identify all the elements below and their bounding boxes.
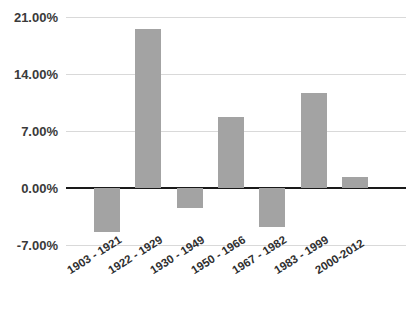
bar	[301, 93, 327, 188]
bar	[259, 188, 285, 227]
gridline	[66, 17, 406, 18]
x-axis-labels: 1903 - 19211922 - 19291930 - 19491950 - …	[66, 258, 410, 324]
plot-area	[66, 0, 406, 258]
bar	[135, 29, 161, 188]
y-axis-tick-label: 21.00%	[0, 10, 58, 25]
y-axis-tick-label: 0.00%	[0, 181, 58, 196]
bar-chart: 21.00%14.00%7.00%0.00%-7.00% 1903 - 1921…	[0, 0, 410, 324]
bar	[94, 188, 120, 232]
bar	[177, 188, 203, 208]
y-axis-tick-label: 7.00%	[0, 124, 58, 139]
y-axis-tick-label: -7.00%	[0, 238, 58, 253]
bar	[342, 177, 368, 188]
y-axis-tick-label: 14.00%	[0, 67, 58, 82]
bar	[218, 117, 244, 188]
gridline	[66, 74, 406, 75]
